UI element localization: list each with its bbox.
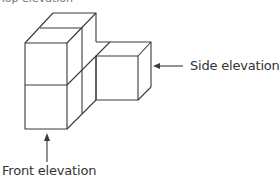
- front-elevation-label: Front elevation: [2, 163, 96, 178]
- isometric-block-diagram: Top elevation Side elevation Front eleva…: [0, 0, 280, 183]
- blocks-drawing: [0, 0, 280, 183]
- front-elevation-arrow-icon: [44, 133, 50, 162]
- side-elevation-arrow-icon: [153, 63, 183, 69]
- side-elevation-label: Side elevation: [190, 58, 280, 73]
- top-cut-text: Top elevation: [0, 0, 73, 5]
- side-cube: [82, 42, 151, 100]
- tall-stack: [25, 13, 96, 129]
